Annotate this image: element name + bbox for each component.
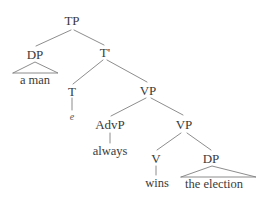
syntax-tree-figure: TP DP T' T VP AdvP VP V DP a man e alway…	[0, 0, 264, 198]
tree-edges-layer	[0, 0, 264, 198]
node-vp-lower: VP	[176, 118, 193, 131]
node-dp-subject: DP	[27, 48, 44, 61]
node-t: T	[68, 85, 76, 98]
edge-vp-to-vplower	[151, 98, 183, 115]
node-t-bar: T'	[100, 46, 110, 59]
terminal-a-man: a man	[20, 74, 50, 87]
terminal-wins: wins	[145, 177, 169, 190]
edge-tp-to-tbar	[74, 30, 104, 45]
edge-vplower-to-v	[157, 133, 181, 150]
triangle-the-election	[181, 166, 256, 177]
edge-vplower-to-dp	[187, 133, 211, 150]
node-vp-upper: VP	[140, 84, 157, 97]
node-tp: TP	[64, 14, 79, 27]
edge-tbar-to-t	[73, 60, 103, 84]
edge-tbar-to-vp	[107, 60, 147, 82]
node-v: V	[151, 152, 160, 165]
triangle-a-man	[13, 62, 58, 73]
edge-tp-to-dp	[36, 30, 71, 46]
terminal-the-election: the election	[185, 178, 243, 191]
node-advp: AdvP	[95, 118, 125, 131]
node-dp-object: DP	[203, 152, 220, 165]
terminal-trace-e: e	[70, 112, 74, 122]
edge-vp-to-advp	[111, 98, 146, 116]
terminal-always: always	[93, 145, 128, 158]
